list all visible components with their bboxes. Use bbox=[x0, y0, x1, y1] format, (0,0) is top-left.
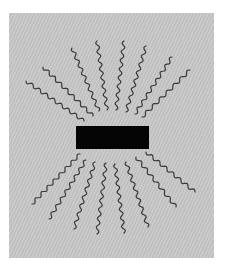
wavy-line bbox=[125, 162, 149, 227]
wavy-line bbox=[96, 41, 109, 110]
wavy-line bbox=[74, 162, 95, 229]
wavy-line bbox=[136, 157, 176, 207]
black-bar bbox=[76, 126, 149, 149]
wavy-line bbox=[135, 57, 172, 114]
wavy-line bbox=[126, 46, 146, 112]
wavy-line bbox=[146, 152, 195, 192]
wavy-line bbox=[142, 70, 190, 117]
wavy-line bbox=[32, 154, 80, 204]
wavy-line bbox=[96, 163, 106, 234]
wavy-line bbox=[114, 164, 126, 233]
wavy-line bbox=[49, 160, 86, 219]
wavy-line bbox=[115, 41, 125, 110]
wavy-line bbox=[71, 48, 99, 111]
